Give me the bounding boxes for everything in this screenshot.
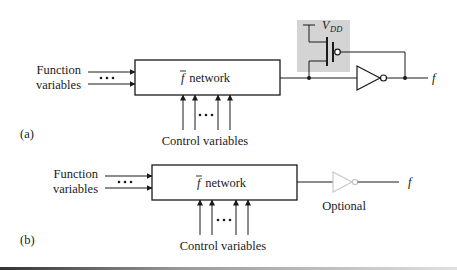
diagram-b: Function variables f network Control var… <box>20 165 413 253</box>
control-ellipsis-dots <box>217 219 232 222</box>
input-ellipsis-dots <box>118 181 133 184</box>
subfigure-label-b: (b) <box>20 233 35 247</box>
optional-inverter <box>333 172 358 192</box>
function-variables-label-line1: Function <box>54 167 99 181</box>
inverter-bubble <box>381 75 387 81</box>
junction-dot <box>307 76 311 80</box>
svg-text:network: network <box>186 71 231 85</box>
control-ellipsis-dots <box>199 114 214 117</box>
diagram-a: Function variables f network Control var… <box>20 18 437 148</box>
svg-text:network: network <box>202 176 247 190</box>
subfigure-label-a: (a) <box>20 127 34 141</box>
junction-dot <box>403 76 407 80</box>
figure-canvas: Function variables f network Control var… <box>0 0 457 270</box>
control-variables-label: Control variables <box>162 134 249 148</box>
output-f-label: f <box>432 71 437 85</box>
function-variables-label-line2: variables <box>53 182 98 196</box>
function-variables-label-line1: Function <box>37 63 82 77</box>
f-bar-network-label: f network <box>180 71 231 85</box>
svg-text:DD: DD <box>329 24 343 34</box>
control-variables-label: Control variables <box>180 239 267 253</box>
function-variables-label-line2: variables <box>36 78 81 92</box>
pmos-gate-bubble <box>335 49 341 55</box>
output-inverter <box>357 66 387 90</box>
output-f-label: f <box>408 175 413 189</box>
optional-label: Optional <box>322 199 366 213</box>
f-bar-network-label: f network <box>196 176 247 190</box>
inverter-bubble <box>352 179 357 184</box>
input-ellipsis-dots <box>100 77 115 80</box>
